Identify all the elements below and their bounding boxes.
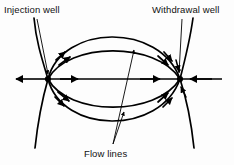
leader-line-withdrawal-well-icon (179, 19, 182, 73)
flow-lines-group (34, 18, 194, 148)
flow-net-figure: Injection well Withdrawal well Flow line… (0, 0, 234, 165)
flow-arrow-outer-upper-left (56, 52, 65, 60)
flow-line-tail-upper-left (34, 18, 48, 79)
flow-lines-label: Flow lines (84, 148, 127, 159)
leader-line-flow-lines-lower-icon (113, 112, 124, 144)
leader-line-flow-lines-upper-icon (113, 50, 134, 144)
flow-net-diagram (0, 0, 234, 165)
withdrawal-well-label: Withdrawal well (152, 4, 220, 15)
injection-well-node-icon (45, 76, 51, 82)
flow-line-tail-lower-left (35, 79, 48, 148)
injection-well-label: Injection well (4, 4, 60, 15)
flow-arrow-outer-lower-left (55, 97, 64, 106)
flow-line-inner-upper (48, 51, 180, 79)
withdrawal-well-node-icon (177, 76, 183, 82)
flow-line-inner-lower (48, 79, 180, 107)
